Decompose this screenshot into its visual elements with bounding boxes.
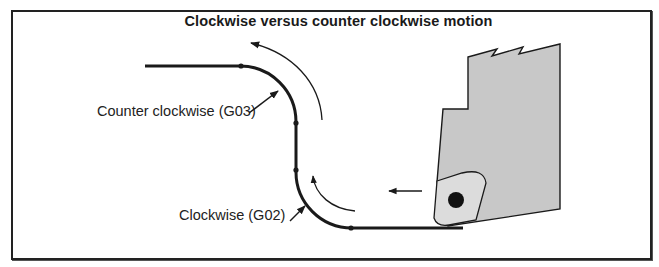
diagram-canvas <box>0 0 659 267</box>
path-node <box>293 167 298 172</box>
cw-pointer-arrow <box>290 206 305 221</box>
tool-path-line <box>145 63 463 230</box>
path-node <box>348 225 353 230</box>
counter-clockwise-direction-arrow <box>251 43 322 120</box>
path-node <box>238 63 243 68</box>
clockwise-direction-arrow <box>313 176 355 211</box>
ccw-pointer-arrow <box>249 91 278 113</box>
path-node <box>293 120 298 125</box>
insert-screw-hole <box>448 192 464 208</box>
